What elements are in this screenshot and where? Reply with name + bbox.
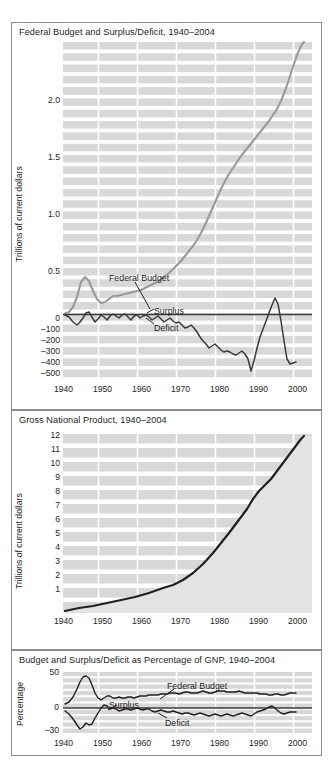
panel-percentage-of-gnp: Budget and Surplus/Deficit as Percentage… [11,650,322,756]
panel3-ytick-minus30: –30 [25,726,59,735]
panel1-ytick-minus200: –200 [26,336,60,345]
panel2-xtick-1970: 1970 [165,616,196,626]
panel3-leader-lines [102,685,192,730]
panel-gross-national-product: Gross National Product, 1940–2004 Trilli… [11,410,322,650]
panel1-xtick-1950: 1950 [87,384,118,394]
panel2-ytick-10: 10 [30,459,60,468]
panel2-xtick-1950: 1950 [87,616,118,626]
panel1-xtick-1970: 1970 [165,384,196,394]
panel2-ytick-8: 8 [30,487,60,496]
panel2-ytick-11: 11 [30,445,60,454]
panel2-ytick-1: 1 [30,585,60,594]
panel1-ytick-minus300: –300 [26,347,60,356]
panel2-plot-area [63,433,312,613]
panel2-ytick-6: 6 [30,515,60,524]
panel2-y-axis-label: Trillions of current dollars [14,466,26,616]
panel2-xtick-1940: 1940 [48,616,79,626]
panel1-leader-lines [102,278,172,333]
panel3-ytick-0: 0 [29,703,59,712]
panel1-ytick-0-5: 0.5 [26,267,60,276]
panel1-ytick-1-0: 1.0 [26,210,60,219]
panel3-xtick-1990: 1990 [243,738,274,748]
panel2-title: Gross National Product, 1940–2004 [19,415,167,425]
panel3-ytick-50: 50 [29,668,59,677]
panel2-xtick-1980: 1980 [204,616,235,626]
panel1-xtick-2000: 2000 [282,384,313,394]
panel2-xtick-1960: 1960 [126,616,157,626]
panel2-ytick-9: 9 [30,473,60,482]
panel1-xtick-1980: 1980 [204,384,235,394]
panel1-y-axis-label: Trillions of current dollars [14,119,26,309]
panel1-svg [63,41,312,381]
panel1-plot-area [63,41,312,381]
panel3-xtick-1940: 1940 [48,738,79,748]
panel1-title: Federal Budget and Surplus/Deficit, 1940… [19,27,215,37]
panel3-xtick-1950: 1950 [87,738,118,748]
panel1-ytick-0: 0 [26,314,60,323]
three-panel-budget-figure: Federal Budget and Surplus/Deficit, 1940… [0,0,333,767]
panel1-xtick-1960: 1960 [126,384,157,394]
panel1-xtick-1940: 1940 [48,384,79,394]
panel-federal-budget: Federal Budget and Surplus/Deficit, 1940… [11,22,322,410]
panel1-xtick-1990: 1990 [243,384,274,394]
panel3-xtick-2000: 2000 [282,738,313,748]
panel2-xtick-2000: 2000 [282,616,313,626]
panel2-ytick-2: 2 [30,571,60,580]
panel2-ytick-7: 7 [30,501,60,510]
panel3-title: Budget and Surplus/Deficit as Percentage… [19,655,275,665]
panel1-ytick-minus400: –400 [26,358,60,367]
panel2-ytick-3: 3 [30,557,60,566]
panel2-ytick-12: 12 [30,431,60,440]
panel1-ytick-1-5: 1.5 [26,153,60,162]
panel3-xtick-1980: 1980 [204,738,235,748]
panel2-ytick-5: 5 [30,529,60,538]
panel2-svg [63,433,312,613]
panel3-xtick-1970: 1970 [165,738,196,748]
panel2-ytick-4: 4 [30,543,60,552]
panel1-ytick-minus500: –500 [26,369,60,378]
panel1-ytick-2-0: 2.0 [26,96,60,105]
panel1-ytick-minus100: –100 [26,325,60,334]
panel2-xtick-1990: 1990 [243,616,274,626]
panel3-xtick-1960: 1960 [126,738,157,748]
